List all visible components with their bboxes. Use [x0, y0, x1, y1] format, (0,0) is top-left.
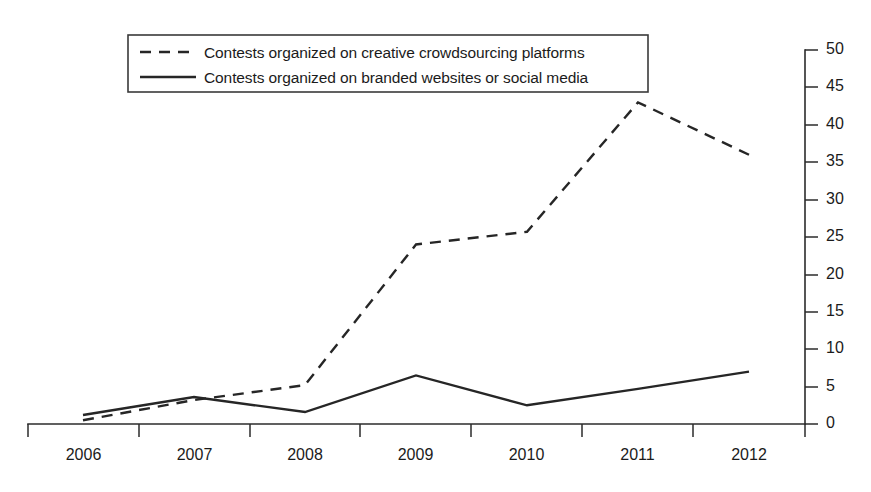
y-tick-label-50: 50 — [826, 40, 844, 58]
series-group — [83, 102, 749, 420]
x-tick-label-2011: 2011 — [582, 446, 693, 464]
y-tick-label-40: 40 — [826, 115, 844, 133]
x-tick-label-2007: 2007 — [139, 446, 250, 464]
y-tick-label-35: 35 — [826, 152, 844, 170]
y-tick-label-5: 5 — [826, 377, 835, 395]
legend-label-crowdsourcing-platforms: Contests organized on creative crowdsour… — [204, 44, 585, 62]
y-tick-label-0: 0 — [826, 414, 835, 432]
y-tick-label-45: 45 — [826, 77, 844, 95]
y-tick-label-20: 20 — [826, 265, 844, 283]
x-axis — [28, 424, 805, 437]
y-axis — [805, 50, 818, 424]
chart-container: Contests organized on creative crowdsour… — [0, 0, 871, 492]
series-line-branded-websites — [83, 372, 749, 415]
x-tick-label-2012: 2012 — [693, 446, 805, 464]
series-line-crowdsourcing-platforms — [83, 102, 749, 420]
x-tick-label-2010: 2010 — [471, 446, 582, 464]
x-tick-label-2009: 2009 — [360, 446, 471, 464]
x-tick-label-2008: 2008 — [250, 446, 360, 464]
y-tick-label-15: 15 — [826, 302, 844, 320]
y-tick-label-10: 10 — [826, 339, 844, 357]
legend-label-branded-websites: Contests organized on branded websites o… — [204, 69, 588, 87]
y-tick-label-25: 25 — [826, 227, 844, 245]
y-tick-label-30: 30 — [826, 190, 844, 208]
x-tick-label-2006: 2006 — [28, 446, 139, 464]
